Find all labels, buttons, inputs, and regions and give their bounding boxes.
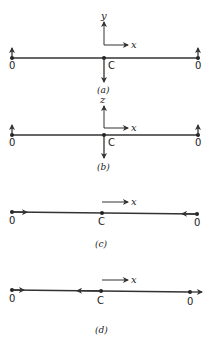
panel-caption: (d)	[95, 325, 108, 335]
center-atom-label: C	[108, 137, 115, 148]
molecule-axis	[12, 212, 197, 214]
normal-modes-diagram: y x 0 C 0 (a) z x 0 C 0 (b) x	[0, 0, 216, 342]
z-axis-label: z	[99, 94, 106, 105]
panel-a: y x 0 C 0 (a)	[9, 10, 201, 95]
x-axis-label: x	[131, 196, 137, 207]
y-axis-label: y	[100, 10, 107, 21]
right-atom-label: 0	[195, 137, 201, 148]
right-atom-label: 0	[195, 60, 201, 71]
left-atom-label: 0	[9, 293, 15, 304]
right-atom-label: 0	[194, 217, 200, 228]
center-atom-label: C	[98, 216, 105, 227]
x-axis-label: x	[131, 122, 137, 133]
left-atom-label: 0	[9, 60, 15, 71]
center-atom	[100, 211, 104, 215]
x-axis-label: x	[131, 274, 137, 285]
panel-caption: (b)	[97, 162, 110, 172]
left-atom-label: 0	[9, 215, 15, 226]
center-atom-label: C	[97, 295, 104, 306]
center-atom-label: C	[108, 60, 115, 71]
panel-caption: (c)	[95, 239, 108, 249]
left-atom-label: 0	[9, 137, 15, 148]
panel-d: x 0 C 0 (d)	[9, 274, 202, 335]
panel-b: z x 0 C 0 (b)	[9, 94, 201, 172]
x-axis-label: x	[131, 39, 137, 50]
panel-c: x 0 C 0 (c)	[9, 196, 200, 249]
right-atom-label: 0	[187, 296, 193, 307]
